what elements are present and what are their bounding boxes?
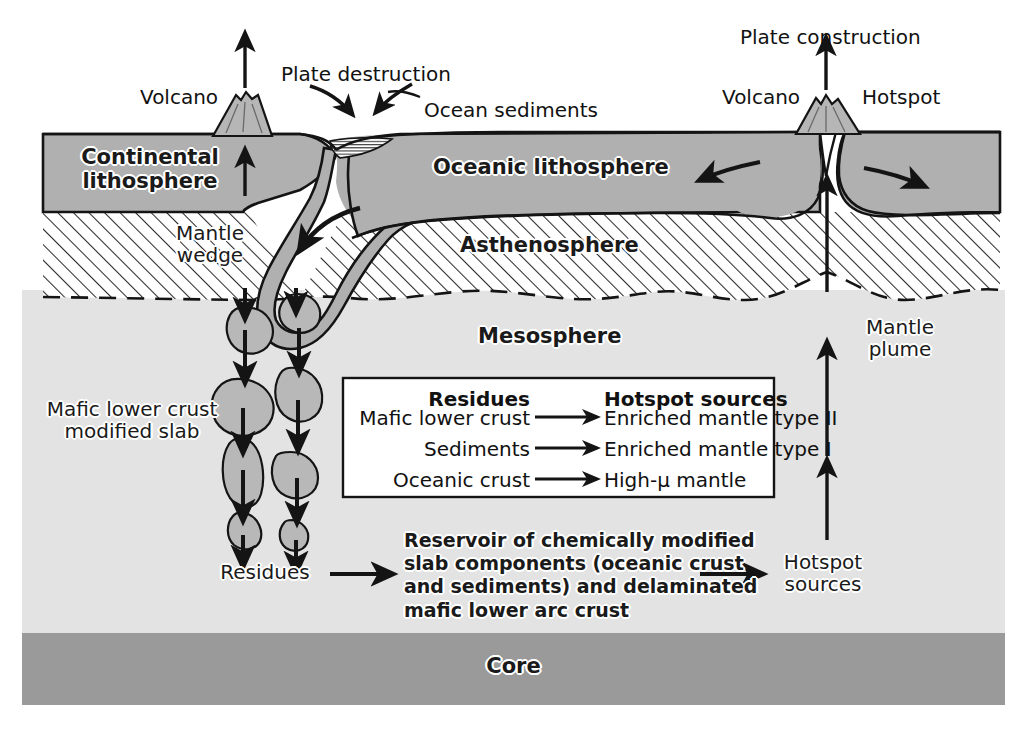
label-hotspot: Hotspot bbox=[862, 86, 940, 109]
label-asthenosphere: Asthenosphere bbox=[460, 234, 639, 258]
legend-row-0-source: Mafic lower crust bbox=[350, 407, 530, 430]
label-volcano-right: Volcano bbox=[722, 86, 800, 109]
blob-b1 bbox=[279, 294, 320, 333]
legend-row-1-source: Sediments bbox=[350, 438, 530, 461]
label-mantle-wedge: Mantle wedge bbox=[150, 222, 270, 267]
label-continental-lithosphere: Continental lithosphere bbox=[52, 146, 248, 193]
label-ocean-sediments: Ocean sediments bbox=[424, 99, 598, 122]
label-reservoir: Reservoir of chemically modified slab co… bbox=[404, 529, 757, 622]
diagram-canvas: Volcano Plate destruction Ocean sediment… bbox=[0, 0, 1029, 739]
label-hotspot-sources: Hotspot sources bbox=[768, 551, 878, 596]
volcano-right bbox=[796, 95, 860, 134]
volcano-left bbox=[213, 92, 272, 136]
legend-row-2-source: Oceanic crust bbox=[350, 469, 530, 492]
arrow-converge-left bbox=[310, 86, 352, 114]
legend-row-2-result: High-μ mantle bbox=[604, 469, 746, 492]
label-core: Core bbox=[22, 655, 1005, 679]
label-plate-construction: Plate construction bbox=[740, 26, 920, 49]
arrow-converge-right bbox=[376, 84, 412, 112]
blob-a1 bbox=[227, 307, 273, 353]
legend-row-0-result: Enriched mantle type II bbox=[604, 407, 837, 430]
legend-row-1-result: Enriched mantle type I bbox=[604, 438, 832, 461]
label-mantle-plume: Mantle plume bbox=[845, 316, 955, 361]
label-mesosphere: Mesosphere bbox=[478, 325, 621, 349]
label-mafic-lower-crust: Mafic lower crust modified slab bbox=[22, 398, 242, 443]
oceanic-lithosphere-right-limb bbox=[837, 132, 1000, 216]
label-oceanic-lithosphere: Oceanic lithosphere bbox=[433, 156, 669, 180]
label-volcano-left: Volcano bbox=[140, 86, 218, 109]
label-residues: Residues bbox=[205, 561, 325, 583]
label-plate-destruction: Plate destruction bbox=[281, 63, 451, 86]
